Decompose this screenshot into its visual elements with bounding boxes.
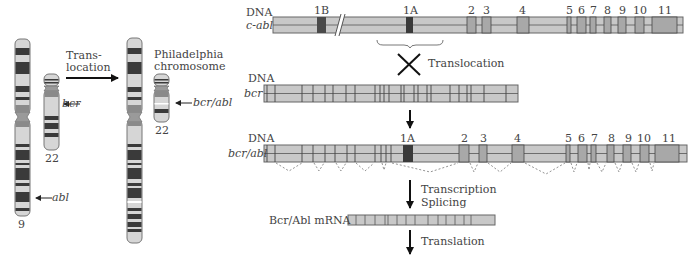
translocation-x-icon xyxy=(398,54,420,75)
splicing-label: Splicing xyxy=(421,197,466,208)
exon-label: 5 xyxy=(565,133,572,144)
transcription-label: Transcription xyxy=(421,184,497,195)
c-abl-gene-label: c-abl xyxy=(246,20,273,31)
abl-locus-label: abl xyxy=(52,192,69,203)
exon-label: 2 xyxy=(468,5,475,16)
exon-label: 4 xyxy=(519,5,526,16)
exon-label: 6 xyxy=(578,133,585,144)
translocation-label-2: location xyxy=(66,62,111,73)
exon-label: 1A xyxy=(400,133,415,144)
mrna-label: Bcr/Abl mRNA xyxy=(269,215,351,226)
exon-label: 11 xyxy=(658,5,672,16)
exon-label: 9 xyxy=(625,133,632,144)
bcr-locus-label: bcr xyxy=(62,98,80,109)
splice-lines xyxy=(276,163,654,174)
exon-label: 4 xyxy=(514,133,521,144)
philadelphia-chromosome xyxy=(154,74,169,122)
philadelphia-label-2: chromosome xyxy=(154,61,225,72)
ph-chromosome-22-label: 22 xyxy=(155,125,169,136)
exon-label: 5 xyxy=(566,5,573,16)
exon-label: 8 xyxy=(608,133,615,144)
exon-label: 2 xyxy=(461,133,468,144)
bcr-abl-mrna xyxy=(348,215,495,225)
translocation-step-label: Translocation xyxy=(428,58,504,69)
bcr-dna-label: DNA xyxy=(248,73,274,84)
exon-label: 7 xyxy=(590,5,597,16)
chromosome-22 xyxy=(44,74,59,150)
exon-label: 9 xyxy=(619,5,626,16)
philadelphia-label-1: Philadelphia xyxy=(154,49,223,60)
c-abl-gene xyxy=(273,14,683,48)
derivative-chromosome-9 xyxy=(127,38,142,243)
bcr-abl-gene-label: bcr/abl xyxy=(228,148,267,159)
bcr-gene xyxy=(264,85,518,102)
exon-label: 11 xyxy=(662,133,676,144)
translation-label: Translation xyxy=(421,236,485,247)
c-abl-dna-label: DNA xyxy=(246,7,272,18)
exon-label: 10 xyxy=(633,5,647,16)
exon-label: 3 xyxy=(480,133,487,144)
bcr-abl-dna-label: DNA xyxy=(248,133,274,144)
exon-label: 3 xyxy=(483,5,490,16)
exon-label: 7 xyxy=(591,133,598,144)
exon-label: 6 xyxy=(578,5,585,16)
exon-label: 1A xyxy=(403,5,418,16)
chromosome-22-label: 22 xyxy=(45,153,59,164)
bcr-abl-gene xyxy=(264,145,687,174)
chromosome-9-label: 9 xyxy=(18,219,25,230)
exon-label: 10 xyxy=(637,133,651,144)
translocation-label-1: Trans- xyxy=(66,50,102,61)
exon-label: 1B xyxy=(314,5,329,16)
exon-label: 8 xyxy=(604,5,611,16)
bcr-gene-label: bcr xyxy=(244,88,262,99)
chromosome-9 xyxy=(15,39,30,216)
bcr-abl-locus-label: bcr/abl xyxy=(193,97,232,108)
